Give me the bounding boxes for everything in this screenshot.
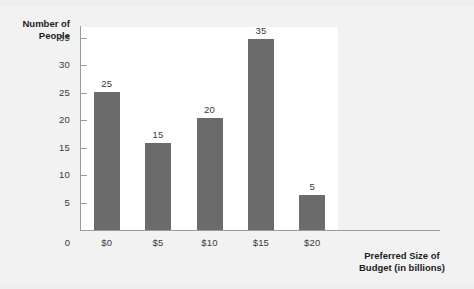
x-axis-category-label: $10: [185, 237, 235, 248]
y-axis-tick-label: 15: [26, 142, 70, 153]
x-axis-category-label: $0: [82, 237, 132, 248]
y-axis-tick-label: 20: [26, 114, 70, 125]
x-axis-category-label: $5: [133, 237, 183, 248]
bar[interactable]: [248, 39, 274, 230]
bar[interactable]: [299, 195, 325, 230]
page-edge-bottom: [0, 284, 474, 289]
bar-slot: 35: [248, 27, 274, 230]
x-axis-title-line-2: Budget (in billions): [338, 262, 466, 274]
bar-value-label: 20: [204, 104, 215, 115]
bar[interactable]: [94, 92, 120, 230]
x-axis-line: [80, 230, 440, 231]
y-axis-tick-label: 35: [26, 32, 70, 43]
y-axis-title-line-1: Number of: [10, 18, 70, 30]
bar[interactable]: [145, 143, 171, 230]
bar-value-label: 25: [101, 78, 112, 89]
x-axis-category-label: $15: [236, 237, 286, 248]
x-axis-title: Preferred Size of Budget (in billions): [338, 250, 466, 274]
bar-value-label: 15: [153, 129, 164, 140]
bar-chart-figure: Number of People 5101520253035 0 2515203…: [0, 0, 474, 289]
y-axis-tick-label: 5: [26, 197, 70, 208]
bar-value-label: 5: [310, 181, 315, 192]
y-axis-tick-label: 30: [26, 59, 70, 70]
bar-slot: 15: [145, 27, 171, 230]
bar-slot: 5: [299, 27, 325, 230]
bars-container: 251520355: [81, 27, 338, 230]
page-edge-top: [0, 0, 474, 6]
bar-slot: 25: [94, 27, 120, 230]
x-axis-category-label: $20: [287, 237, 337, 248]
x-axis-title-line-1: Preferred Size of: [338, 250, 466, 262]
y-axis-tick-label: 25: [26, 87, 70, 98]
bar-value-label: 35: [255, 25, 266, 36]
y-axis-zero-label: 0: [26, 237, 70, 248]
bar-slot: 20: [197, 27, 223, 230]
y-axis-tick-label: 10: [26, 169, 70, 180]
bar[interactable]: [197, 118, 223, 230]
